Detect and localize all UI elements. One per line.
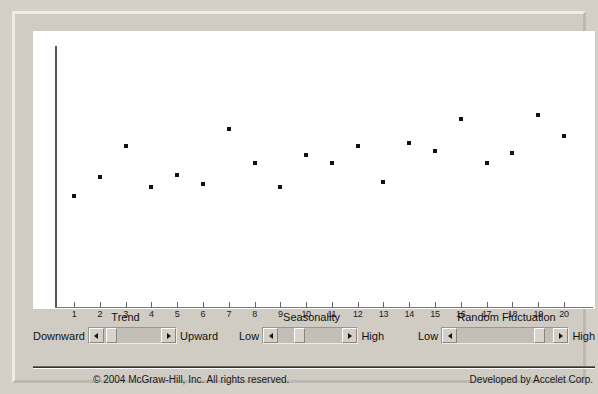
- x-tick: [280, 302, 281, 308]
- data-point: [278, 185, 282, 189]
- timeseries-simulation-applet: 1234567891011121314151617181920 Trend Do…: [0, 0, 598, 394]
- data-point: [407, 141, 411, 145]
- data-point: [562, 134, 566, 138]
- x-tick: [100, 302, 101, 308]
- data-point: [72, 194, 76, 198]
- data-point: [459, 117, 463, 121]
- x-tick: [564, 302, 565, 308]
- applet-frame: 1234567891011121314151617181920 Trend Do…: [12, 11, 586, 383]
- random-fluctuation-title: Random Fluctuation: [418, 311, 595, 323]
- x-tick: [538, 302, 539, 308]
- x-tick: [151, 302, 152, 308]
- slider-controls: Trend Downward Upward: [33, 311, 595, 359]
- trend-right-label: Upward: [180, 330, 218, 342]
- trend-slider-thumb[interactable]: [106, 328, 117, 343]
- data-point: [201, 182, 205, 186]
- data-point: [433, 149, 437, 153]
- x-tick: [487, 302, 488, 308]
- x-tick: [306, 302, 307, 308]
- data-point: [510, 151, 514, 155]
- random-fluctuation-slider[interactable]: [441, 327, 569, 344]
- trend-increment-button[interactable]: [161, 328, 176, 343]
- arrow-left-icon: [94, 333, 98, 339]
- random-fluctuation-increment-button[interactable]: [553, 328, 568, 343]
- y-axis: [55, 46, 57, 308]
- x-tick: [255, 302, 256, 308]
- seasonality-decrement-button[interactable]: [263, 328, 278, 343]
- trend-left-label: Downward: [33, 330, 85, 342]
- x-tick: [177, 302, 178, 308]
- x-tick: [74, 302, 75, 308]
- x-tick: [409, 302, 410, 308]
- footer: © 2004 McGraw-Hill, Inc. All rights rese…: [33, 374, 595, 390]
- copyright-text: © 2004 McGraw-Hill, Inc. All rights rese…: [93, 374, 289, 385]
- seasonality-slider[interactable]: [262, 327, 358, 344]
- developer-credit: Developed by Accelet Corp.: [470, 374, 593, 385]
- random-fluctuation-decrement-button[interactable]: [442, 328, 457, 343]
- arrow-right-icon: [559, 333, 563, 339]
- x-tick: [203, 302, 204, 308]
- trend-slider-group: Trend Downward Upward: [33, 311, 218, 357]
- data-point: [381, 180, 385, 184]
- data-point: [149, 185, 153, 189]
- seasonality-slider-row: Low High: [239, 327, 384, 344]
- data-point: [253, 161, 257, 165]
- arrow-left-icon: [269, 333, 273, 339]
- data-point: [536, 113, 540, 117]
- data-point: [227, 127, 231, 131]
- random-fluctuation-slider-thumb[interactable]: [534, 328, 545, 343]
- random-fluctuation-slider-row: Low High: [418, 327, 595, 344]
- seasonality-slider-group: Seasonality Low High: [239, 311, 384, 357]
- arrow-right-icon: [167, 333, 171, 339]
- random-fluctuation-right-label: High: [572, 330, 595, 342]
- x-tick: [358, 302, 359, 308]
- seasonality-increment-button[interactable]: [342, 328, 357, 343]
- trend-decrement-button[interactable]: [89, 328, 104, 343]
- trend-title: Trend: [33, 311, 218, 323]
- seasonality-right-label: High: [361, 330, 384, 342]
- footer-divider: [33, 366, 595, 369]
- data-point: [304, 153, 308, 157]
- x-tick: [126, 302, 127, 308]
- data-point: [330, 161, 334, 165]
- arrow-left-icon: [448, 333, 452, 339]
- data-point: [98, 175, 102, 179]
- data-point: [175, 173, 179, 177]
- trend-slider[interactable]: [88, 327, 177, 344]
- trend-slider-row: Downward Upward: [33, 327, 218, 344]
- x-tick: [435, 302, 436, 308]
- seasonality-left-label: Low: [239, 330, 259, 342]
- data-point: [356, 144, 360, 148]
- chart-area: 1234567891011121314151617181920: [33, 31, 595, 309]
- seasonality-slider-thumb[interactable]: [294, 328, 305, 343]
- x-tick: [383, 302, 384, 308]
- seasonality-title: Seasonality: [239, 311, 384, 323]
- scatter-plot: 1234567891011121314151617181920: [33, 31, 595, 309]
- x-tick: [512, 302, 513, 308]
- x-tick: [229, 302, 230, 308]
- random-fluctuation-left-label: Low: [418, 330, 438, 342]
- x-tick: [332, 302, 333, 308]
- data-point: [124, 144, 128, 148]
- random-fluctuation-slider-group: Random Fluctuation Low High: [418, 311, 595, 357]
- data-point: [485, 161, 489, 165]
- x-tick: [461, 302, 462, 308]
- arrow-right-icon: [348, 333, 352, 339]
